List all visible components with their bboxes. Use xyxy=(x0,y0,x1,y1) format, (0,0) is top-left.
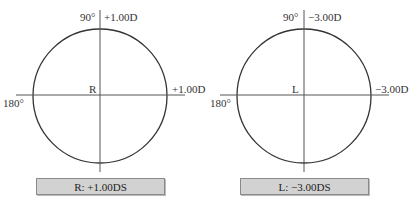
label-180-degree: 180° xyxy=(3,97,24,109)
right-eye-optical-cross: 90° +1.00D 180° +1.00D R xyxy=(3,10,205,172)
right-eye-summary: R: +1.00DS xyxy=(74,181,127,193)
horizontal-power-label: −3.00D xyxy=(375,83,408,95)
left-eye-summary: L: −3.00DS xyxy=(278,181,330,193)
left-eye-optical-cross: 90° −3.00D 180° −3.00D L xyxy=(210,10,408,172)
label-90-degree: 90° xyxy=(283,11,298,23)
label-180-degree: 180° xyxy=(210,97,231,109)
left-eye-summary-box: L: −3.00DS xyxy=(240,178,369,195)
eye-label: L xyxy=(292,83,299,95)
label-90-degree: 90° xyxy=(80,11,95,23)
right-eye-summary-box: R: +1.00DS xyxy=(36,178,165,195)
eye-label: R xyxy=(89,83,97,95)
vertical-power-label: −3.00D xyxy=(308,11,341,23)
vertical-power-label: +1.00D xyxy=(104,11,137,23)
horizontal-power-label: +1.00D xyxy=(172,83,205,95)
